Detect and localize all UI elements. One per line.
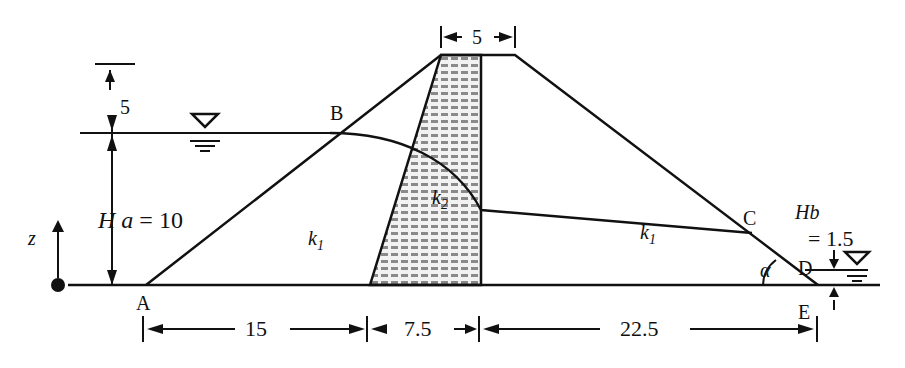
water-level-icon (192, 114, 218, 127)
origin-dot (51, 278, 65, 292)
point-c-label: C (743, 208, 756, 228)
z-arrow-icon (52, 220, 64, 232)
slope-angle-label: α (760, 260, 771, 280)
zone-core-k2: k2 (432, 187, 448, 212)
z-axis-label: z (28, 228, 36, 248)
base-core-dim: 7.5 (404, 318, 432, 340)
core-zone (370, 55, 481, 285)
downstream-head-value: = 1.5 (808, 228, 853, 250)
point-e-label: E (798, 302, 810, 322)
base-left-dim: 15 (245, 318, 267, 340)
point-b-label: B (330, 103, 343, 123)
downstream-head-label: Hb (795, 202, 819, 222)
point-a-label: A (136, 293, 150, 313)
zone-left-k1: k1 (308, 228, 324, 253)
zone-right-k1: k1 (640, 222, 656, 247)
point-d-label: D (798, 258, 812, 278)
crest-width-label: 5 (472, 27, 482, 47)
base-right-dim: 22.5 (620, 318, 659, 340)
upstream-head-label: H a = 10 (98, 208, 183, 232)
freeboard-label: 5 (120, 97, 130, 117)
